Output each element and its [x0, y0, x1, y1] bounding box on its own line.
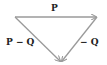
label-p: P [51, 4, 58, 13]
vector-diagram: P P − Q − Q [0, 0, 107, 65]
label-minus-q: − Q [80, 38, 99, 47]
label-p-minus-q: P − Q [6, 38, 34, 47]
